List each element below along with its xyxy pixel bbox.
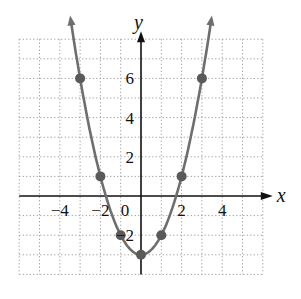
x-axis-arrow-icon [261,192,273,200]
x-tick-label: 2 [177,201,186,220]
data-point [197,73,207,83]
data-point [156,230,166,240]
x-axis-label: x [276,184,286,206]
x-tick-label: −4 [51,201,70,220]
data-point [136,250,146,260]
y-axis-label: y [132,11,143,34]
data-point [75,73,85,83]
axes [19,31,273,274]
y-tick-label: 4 [126,109,135,128]
x-tick-label: −2 [91,201,109,220]
data-point [95,171,105,181]
data-point [177,171,187,181]
y-tick-label: 2 [126,148,135,167]
y-tick-label: 6 [126,69,135,88]
curve-arrow-icon [68,16,76,26]
curve-arrow-icon [206,16,214,26]
x-tick-label: 0 [121,201,130,220]
y-tick-label: −2 [116,226,134,245]
tick-labels: xy−4−2024642−2 [51,11,286,245]
x-tick-label: 4 [218,201,227,220]
parabola-graph: xy−4−2024642−2 [0,0,301,299]
